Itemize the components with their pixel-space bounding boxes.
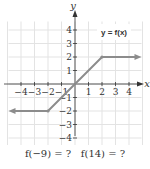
x-tick-label: −3 [28,87,42,97]
y-tick-label: −4 [59,133,73,143]
series-right-arrow-icon [135,54,142,60]
series-point [100,55,103,58]
question-f-neg9: f(−9) = ? [25,148,71,159]
y-tick-label: 4 [66,25,72,35]
y-axis-arrow-icon [73,10,78,17]
legend-label: y = f(x) [101,28,127,37]
x-tick-label: 1 [86,87,92,97]
axes: xy [4,0,150,136]
caption: f(−9) = ? f(14) = ? [0,148,150,159]
y-tick-label: −3 [59,120,73,130]
question-f-14: f(14) = ? [81,148,125,159]
series-left-arrow-icon [9,108,16,114]
x-tick-label: −2 [41,87,54,97]
legend: y = f(x) [97,24,131,40]
y-tick-label: −2 [59,106,72,116]
x-axis-label: x [144,78,150,89]
y-tick-label: 3 [66,39,72,49]
y-tick-label: 1 [66,66,72,76]
series-point [46,109,49,112]
x-tick-label: 4 [126,87,132,97]
x-tick-label: −4 [14,87,28,97]
x-tick-label: 3 [113,87,119,97]
x-tick-label: 2 [99,87,105,97]
y-axis-label: y [69,0,76,11]
function-graph: xy −4−3−2−112344321−1−2−3−4 y = f(x) [0,0,150,145]
y-tick-label: 2 [66,52,72,62]
